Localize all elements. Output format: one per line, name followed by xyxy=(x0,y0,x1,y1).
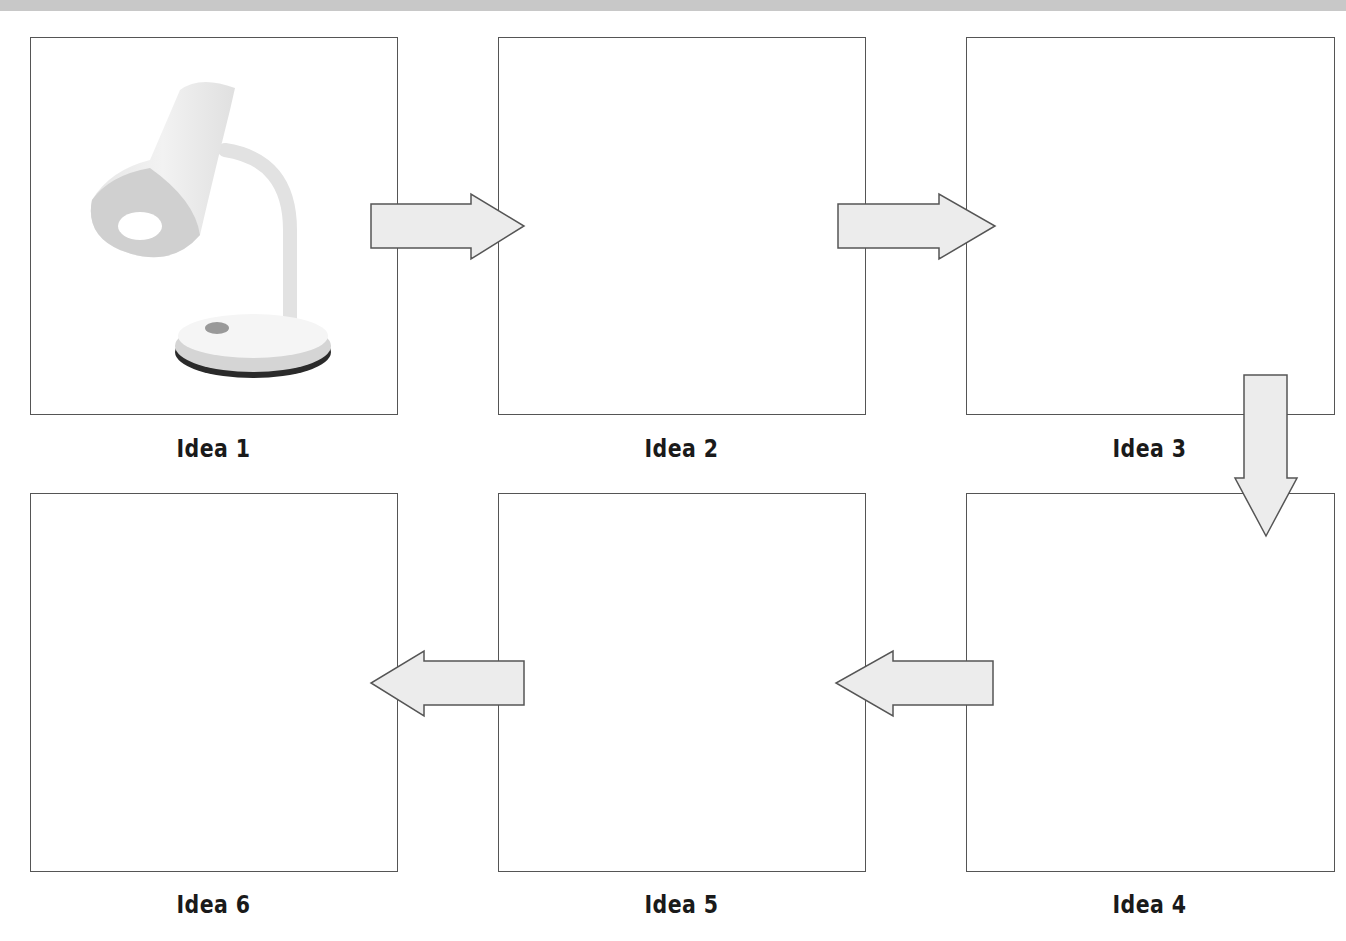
arrow-right-icon xyxy=(837,193,997,261)
idea-box-4 xyxy=(966,493,1335,872)
top-bar xyxy=(0,0,1346,11)
idea-label-4: Idea 4 xyxy=(999,890,1300,919)
idea-label-1: Idea 1 xyxy=(63,434,364,463)
arrow-left-icon xyxy=(370,650,526,718)
idea-label-2: Idea 2 xyxy=(531,434,832,463)
idea-box-3 xyxy=(966,37,1335,415)
arrow-left-icon xyxy=(835,650,995,718)
idea-label-3: Idea 3 xyxy=(999,434,1300,463)
idea-box-6 xyxy=(30,493,398,872)
idea-label-5: Idea 5 xyxy=(531,890,832,919)
idea-box-2 xyxy=(498,37,866,415)
idea-box-5 xyxy=(498,493,866,872)
idea-label-6: Idea 6 xyxy=(63,890,364,919)
desk-lamp-icon xyxy=(75,75,355,395)
arrow-right-icon xyxy=(370,193,526,261)
